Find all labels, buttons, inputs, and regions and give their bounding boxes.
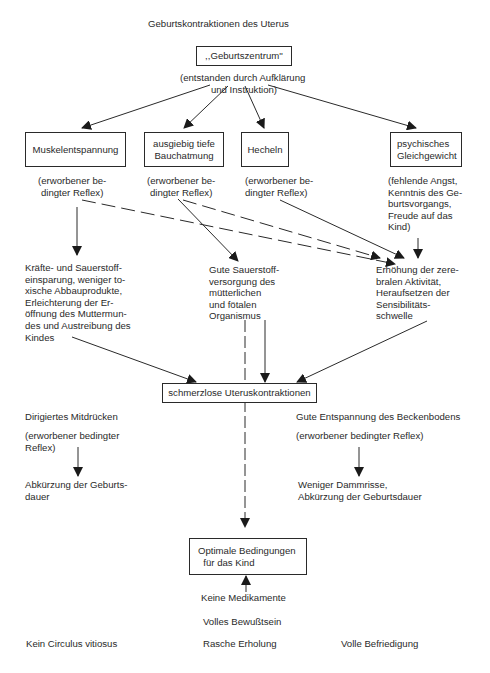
effect-kraefte: Kräfte- und Sauerstoff- einsparung, weni…	[25, 262, 131, 343]
bottom-item-2: Rasche Erholung	[203, 638, 277, 650]
left-branch-outcome: Abkürzung der Geburts- dauer	[25, 479, 127, 502]
method-box-gleichgewicht: psychisches Gleichgewicht	[390, 132, 462, 167]
method-note-1: (erworbener be- dingter Reflex)	[38, 175, 106, 198]
effect-erhoehung: Erhöhung der zere- bralen Aktivität, Her…	[376, 264, 459, 322]
diagram-title: Geburtskontraktionen des Uterus	[148, 18, 289, 30]
geburtszentrum-box: ,,Geburtszentrum''	[196, 46, 292, 66]
method-box-muskelentspannung: Muskelentspannung	[25, 132, 126, 167]
method-note-2: (erworbener be- dingter Reflex)	[147, 175, 215, 198]
result-box: schmerzlose Uteruskontraktionen	[162, 383, 317, 403]
effect-sauerstoff: Gute Sauerstoff- versorgung des mütterli…	[209, 264, 279, 322]
method-note-3: (erworbener be- dingter Reflex)	[245, 175, 313, 198]
left-branch-note: (erworbener bedingter Reflex)	[25, 430, 119, 453]
method-note-4: (fehlende Angst, Kenntnis des Ge- burtsv…	[388, 175, 462, 233]
bottom-item-1: Kein Circulus vitiosus	[26, 638, 117, 650]
no-medication-label: Keine Medikamente	[201, 592, 286, 604]
right-branch-outcome: Weniger Dammrisse, Abkürzung der Geburts…	[298, 479, 422, 502]
center-note: (entstanden durch Aufklärung und Instruk…	[180, 72, 305, 95]
right-branch-title: Gute Entspannung des Beckenbodens	[296, 411, 460, 423]
left-branch-title: Dirigiertes Mitdrücken	[25, 411, 118, 423]
full-consciousness-label: Volles Bewußtsein	[203, 616, 281, 628]
optimal-box: Optimale Bedingungen für das Kind	[189, 538, 307, 575]
method-box-hecheln: Hecheln	[241, 132, 289, 167]
bottom-item-3: Volle Befriedigung	[341, 638, 418, 650]
right-branch-note: (erworbener bedingter Reflex)	[296, 430, 423, 442]
method-box-bauchatmung: ausgiebig tiefe Bauchatmung	[144, 132, 224, 167]
